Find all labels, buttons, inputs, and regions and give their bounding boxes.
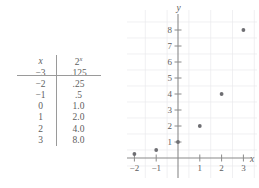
cell-x: 2 (26, 124, 57, 135)
table-row: 0 1.0 (26, 102, 101, 113)
x-tick-label: 2 (219, 163, 224, 173)
figure-container: x 2x −3 .125 −2 .25 −1 .5 (0, 0, 259, 188)
x-tick-label: −2 (130, 163, 140, 173)
axis-names-layer: xy (175, 3, 255, 164)
scatter-plot-panel: −3−2−112312345678 xy (126, 0, 259, 188)
cell-y: .125 (56, 68, 101, 79)
table-header-fx-exponent: x (79, 55, 82, 62)
table-row: −2 .25 (26, 79, 101, 90)
cell-y: .25 (56, 79, 101, 90)
table-header-rule (17, 75, 101, 76)
data-point (198, 124, 202, 128)
y-tick-label: 2 (168, 121, 173, 131)
table-row: −1 .5 (26, 90, 101, 101)
cell-y: .5 (56, 90, 101, 101)
y-tick-label: 4 (168, 89, 173, 99)
cell-y: 8.0 (56, 135, 101, 146)
x-axis-label: x (249, 154, 255, 164)
cell-x: −3 (26, 68, 57, 79)
y-axis-label: y (175, 3, 181, 13)
table-header-row: x 2x (26, 55, 101, 68)
table-row: 1 2.0 (26, 113, 101, 124)
data-point (133, 152, 137, 156)
cell-x: −1 (26, 90, 57, 101)
data-point (176, 140, 180, 144)
cell-y: 4.0 (56, 124, 101, 135)
y-tick-label: 6 (168, 57, 173, 67)
cell-x: 0 (26, 102, 57, 113)
data-point (242, 28, 246, 32)
y-tick-label: 1 (168, 137, 173, 147)
cell-x: 3 (26, 135, 57, 146)
table-head: x 2x (26, 55, 101, 68)
tick-labels-layer: −3−2−112312345678 (126, 25, 246, 173)
cell-x: −2 (26, 79, 57, 90)
table-header-fx: 2x (56, 55, 101, 68)
table-row: 2 4.0 (26, 124, 101, 135)
cell-y: 2.0 (56, 113, 101, 124)
data-point (220, 92, 224, 96)
data-points-layer (126, 28, 245, 158)
cell-y: 1.0 (56, 102, 101, 113)
y-tick-label: 7 (168, 41, 173, 51)
value-table: x 2x −3 .125 −2 .25 −1 .5 (26, 55, 101, 146)
y-tick-label: 8 (168, 25, 173, 35)
y-tick-label: 3 (168, 105, 173, 115)
data-point (154, 148, 158, 152)
x-tick-label: 3 (241, 163, 246, 173)
scatter-plot-svg: −3−2−112312345678 xy (126, 0, 259, 188)
table-row: −3 .125 (26, 68, 101, 79)
grid-layer (127, 10, 257, 178)
ticks-layer (126, 30, 243, 162)
table-header-x: x (26, 55, 57, 68)
table-body: −3 .125 −2 .25 −1 .5 0 1.0 1 2.0 (26, 68, 101, 146)
value-table-panel: x 2x −3 .125 −2 .25 −1 .5 (0, 55, 126, 175)
table-row: 3 8.0 (26, 135, 101, 146)
cell-x: 1 (26, 113, 57, 124)
x-tick-label: 1 (198, 163, 203, 173)
x-tick-label: −1 (151, 163, 161, 173)
y-tick-label: 5 (168, 73, 173, 83)
